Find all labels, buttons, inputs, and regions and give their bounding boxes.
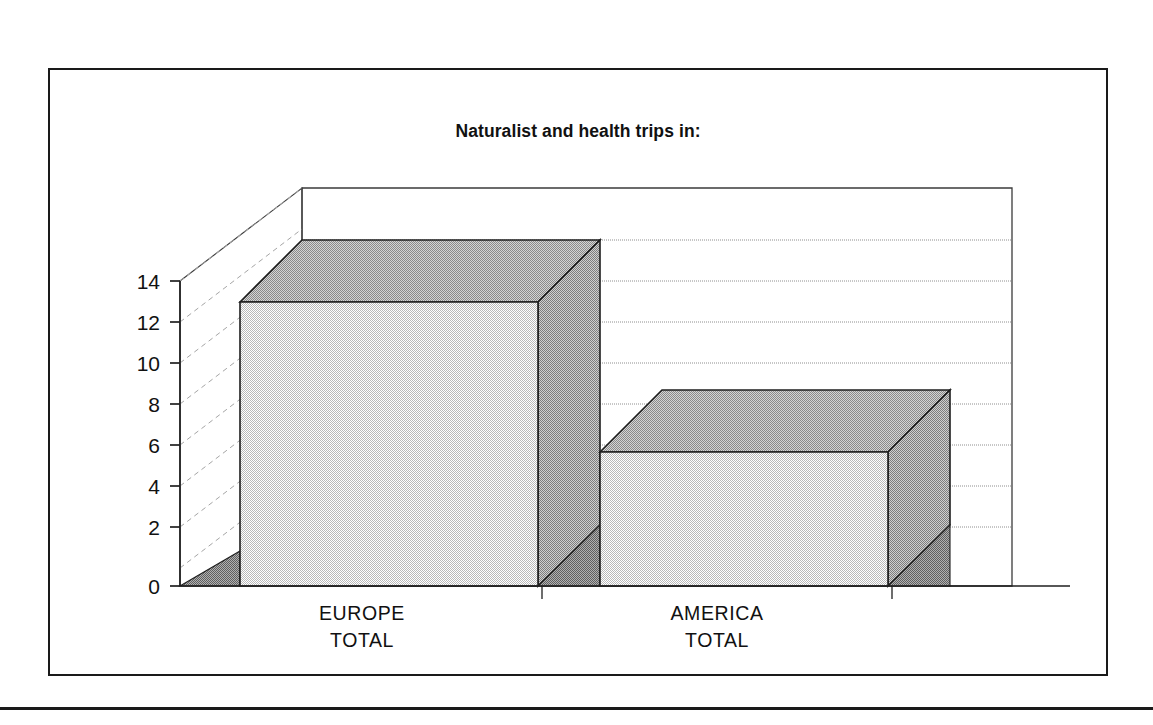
page-bottom-rule: [0, 707, 1153, 710]
bar-europe-total[interactable]: [240, 240, 600, 586]
bar-front-face: [240, 302, 538, 586]
cat-label-europe-line2: TOTAL: [330, 629, 394, 651]
y-axis: 14 12 10 8 6 4 2 0: [137, 270, 180, 598]
bar-america-total[interactable]: [600, 390, 950, 586]
bar-top-face: [240, 240, 600, 302]
y-tick-label-0: 0: [148, 575, 160, 598]
floor-wedge-left: [180, 551, 240, 586]
chart-canvas: Naturalist and health trips in:: [50, 70, 1106, 674]
y-tick-label-14: 14: [137, 270, 161, 293]
page-root: Naturalist and health trips in:: [0, 0, 1153, 725]
y-tick-label-4: 4: [148, 475, 160, 498]
x-axis-category-labels: EUROPE TOTAL AMERICA TOTAL: [319, 602, 764, 651]
bar-front-face: [600, 452, 888, 586]
y-tick-label-12: 12: [137, 311, 160, 334]
x-axis: [180, 586, 1070, 599]
y-tick-label-10: 10: [137, 352, 160, 375]
chart-title: Naturalist and health trips in:: [455, 121, 700, 141]
cat-label-europe-line1: EUROPE: [319, 602, 405, 624]
y-tick-label-6: 6: [148, 434, 160, 457]
cat-label-america-line2: TOTAL: [685, 629, 749, 651]
chart-frame: Naturalist and health trips in:: [48, 68, 1108, 676]
y-tick-label-2: 2: [148, 516, 160, 539]
y-tick-label-8: 8: [148, 393, 160, 416]
cat-label-america-line1: AMERICA: [670, 602, 763, 624]
